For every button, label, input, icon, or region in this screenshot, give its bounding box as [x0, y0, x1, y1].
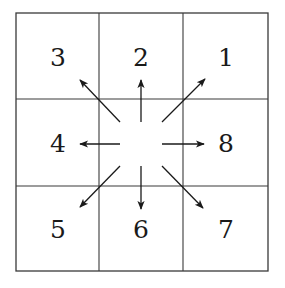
cell-label-4: 4 — [38, 127, 78, 161]
cell-label-7: 7 — [206, 213, 246, 247]
cell-label-5: 5 — [38, 213, 78, 247]
cell-label-3: 3 — [38, 41, 78, 75]
direction-grid-diagram: 3 2 1 4 8 5 6 7 — [0, 0, 285, 288]
arrow-to-3-icon — [80, 80, 120, 122]
cell-label-6: 6 — [121, 213, 161, 247]
cell-label-center — [121, 127, 161, 161]
cell-label-2: 2 — [121, 41, 161, 75]
cell-label-8: 8 — [206, 127, 246, 161]
cell-label-1: 1 — [206, 41, 246, 75]
